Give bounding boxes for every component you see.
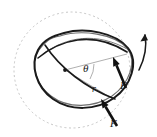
- radius-r-label: r: [92, 84, 96, 94]
- rotation-direction-arrow: [139, 34, 148, 70]
- angle-theta-label: θ: [83, 63, 88, 74]
- crossing-curve-upper: [38, 39, 127, 58]
- force-label-bottom: F: [110, 118, 117, 129]
- mechanics-figure: θ r F F: [0, 0, 157, 137]
- undeformed-reference-circle: [14, 12, 130, 128]
- center-dot: [63, 68, 67, 72]
- figure-canvas: [0, 0, 157, 137]
- crossing-curve-lower: [45, 45, 115, 99]
- angle-arc-theta: [90, 64, 94, 79]
- force-label-right: F: [120, 80, 127, 91]
